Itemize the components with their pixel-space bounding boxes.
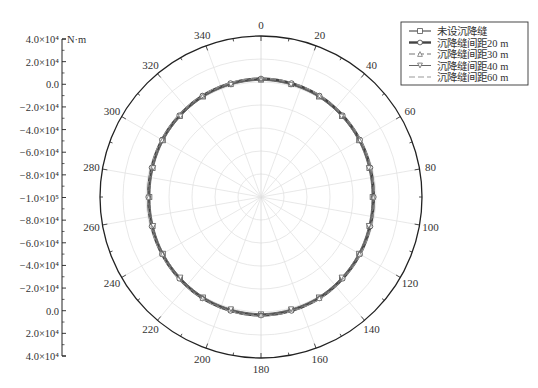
angle-label-280: 280	[83, 161, 100, 173]
outer-tick	[206, 344, 208, 349]
legend-entry: 沉降缝间距40 m	[437, 60, 508, 72]
angle-label-160: 160	[312, 353, 329, 365]
radial-tick-label: 0.0	[46, 79, 59, 90]
radial-tick-label: −1.0×10⁵	[20, 193, 59, 204]
angle-label-300: 300	[104, 105, 121, 117]
angle-label-340: 340	[194, 29, 211, 41]
radial-tick-label: 4.0×10⁴	[26, 34, 60, 45]
outer-tick	[415, 169, 420, 170]
radial-tick-label: 2.0×10⁴	[26, 328, 60, 339]
radial-tick-label: −4.0×10⁴	[20, 125, 59, 136]
angle-label-60: 60	[405, 105, 417, 117]
radial-tick-label: −8.0×10⁴	[20, 215, 59, 226]
outer-tick	[102, 224, 107, 225]
outer-tick	[158, 317, 161, 321]
radial-axis: 4.0×10⁴2.0×10⁴0.0−2.0×10⁴−4.0×10⁴−6.0×10…	[20, 34, 86, 362]
outer-tick	[102, 169, 107, 170]
angle-label-320: 320	[142, 59, 159, 71]
angle-label-180: 180	[253, 363, 270, 375]
outer-tick	[206, 46, 208, 51]
outer-tick	[122, 275, 126, 278]
outer-tick	[415, 224, 420, 225]
outer-tick	[122, 117, 126, 120]
marker-square	[418, 29, 423, 34]
grid-spoke	[206, 46, 261, 197]
outer-tick	[361, 317, 364, 321]
outer-tick	[314, 46, 316, 51]
grid-spoke	[261, 197, 316, 348]
radial-tick-label: −6.0×10⁴	[20, 147, 59, 158]
legend-entry: 沉降缝间距60 m	[437, 71, 508, 83]
radial-tick-label: −4.0×10⁴	[20, 260, 59, 271]
angle-label-120: 120	[402, 277, 419, 289]
angle-label-80: 80	[425, 161, 437, 173]
angle-label-260: 260	[83, 221, 100, 233]
legend-entry: 沉降缝间距20 m	[437, 37, 508, 49]
radial-tick-label: 0.0	[46, 306, 59, 317]
angle-label-40: 40	[366, 59, 378, 71]
radial-tick-label: −2.0×10⁴	[20, 102, 59, 113]
marker-circle	[418, 40, 423, 45]
angle-label-220: 220	[142, 323, 159, 335]
outer-tick	[396, 117, 400, 120]
unit-label: N·m	[67, 34, 86, 45]
grid-spoke	[261, 46, 316, 197]
radial-tick-label: −6.0×10⁴	[20, 238, 59, 249]
angle-label-20: 20	[314, 29, 326, 41]
radial-tick-label: −2.0×10⁴	[20, 283, 59, 294]
radial-tick-label: 4.0×10⁴	[26, 351, 60, 362]
legend-entry: 沉降缝间距30 m	[437, 48, 508, 60]
outer-tick	[396, 275, 400, 278]
outer-tick	[158, 74, 161, 78]
legend-entry: 未设沉降缝	[437, 25, 488, 37]
grid-spoke	[206, 197, 261, 348]
outer-tick	[361, 74, 364, 78]
angle-label-100: 100	[422, 221, 439, 233]
angle-label-200: 200	[194, 353, 211, 365]
legend: 未设沉降缝沉降缝间距20 m沉降缝间距30 m沉降缝间距40 m沉降缝间距60 …	[401, 22, 528, 85]
angle-label-240: 240	[104, 277, 121, 289]
angle-label-140: 140	[363, 323, 380, 335]
outer-tick	[314, 344, 316, 349]
radial-tick-label: −8.0×10⁴	[20, 170, 59, 181]
radial-tick-label: 2.0×10⁴	[26, 57, 60, 68]
angle-label-0: 0	[258, 19, 264, 31]
polar-chart: 0204060801001201401601802002202402602803…	[0, 0, 538, 388]
